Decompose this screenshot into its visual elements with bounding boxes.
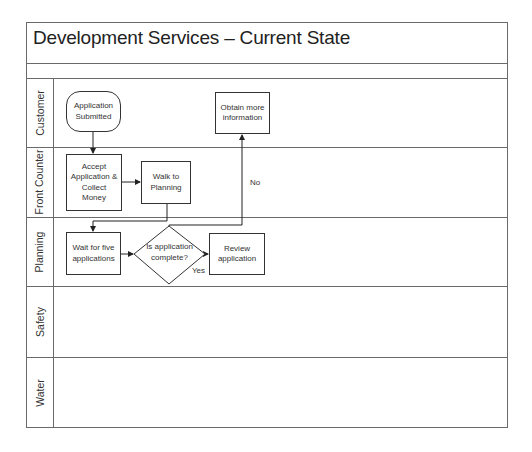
lane-label-text: Planning: [34, 231, 46, 272]
node-label: complete?: [134, 253, 205, 264]
node-accept-application: Accept Application & Collect Money: [66, 154, 122, 211]
diagram-frame: [26, 22, 508, 428]
node-label: Application &: [71, 172, 118, 183]
node-is-application-complete: Is application complete?: [134, 242, 205, 263]
node-label: Planning: [150, 183, 181, 194]
lane-label-column-divider: [53, 78, 54, 428]
node-label: Application: [74, 101, 113, 112]
lane-label-text: Safety: [34, 307, 46, 337]
edge-label-no: No: [250, 178, 260, 187]
node-review-application: Review application: [209, 233, 265, 275]
lane-label-safety: Safety: [26, 286, 53, 357]
node-label: Accept: [71, 162, 118, 173]
lane-label-front-counter: Front Counter: [26, 147, 53, 217]
lane-label-water: Water: [26, 357, 53, 428]
node-walk-to-planning: Walk to Planning: [141, 161, 191, 204]
node-obtain-more-information: Obtain more information: [215, 92, 270, 134]
edge-label-yes: Yes: [192, 266, 205, 275]
title-band-divider: [26, 63, 508, 64]
node-label: Review: [218, 244, 256, 255]
lane-label-planning: Planning: [26, 217, 53, 286]
lane-label-customer: Customer: [26, 78, 53, 147]
node-label: Wait for five: [72, 243, 114, 254]
node-label: applications: [72, 254, 114, 265]
node-label: information: [220, 113, 264, 124]
node-label: Submitted: [74, 112, 113, 123]
lane-label-text: Front Counter: [34, 150, 46, 215]
node-application-submitted: Application Submitted: [66, 91, 121, 132]
node-label: application: [218, 254, 256, 265]
node-label: Collect: [71, 183, 118, 194]
lane-divider-customer: [26, 147, 508, 148]
node-label: Is application: [134, 242, 205, 253]
node-label: Obtain more: [220, 103, 264, 114]
diagram-title: Development Services – Current State: [33, 27, 350, 49]
lane-divider-front-counter: [26, 217, 508, 218]
node-wait-for-five-applications: Wait for five applications: [66, 232, 121, 275]
node-label: Walk to: [150, 172, 181, 183]
lane-divider-planning: [26, 286, 508, 287]
header-band-divider: [26, 78, 508, 79]
lane-divider-safety: [26, 357, 508, 358]
lane-label-text: Water: [34, 379, 46, 407]
lane-label-text: Customer: [34, 90, 46, 136]
node-label: Money: [71, 193, 118, 204]
